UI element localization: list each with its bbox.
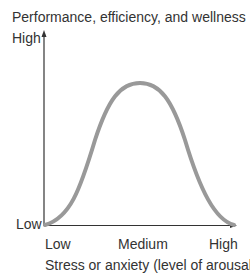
performance-curve (45, 83, 234, 225)
chart-plot (0, 0, 250, 276)
y-axis (42, 30, 47, 226)
x-axis (44, 223, 237, 228)
y-axis-arrow-icon (42, 30, 47, 37)
